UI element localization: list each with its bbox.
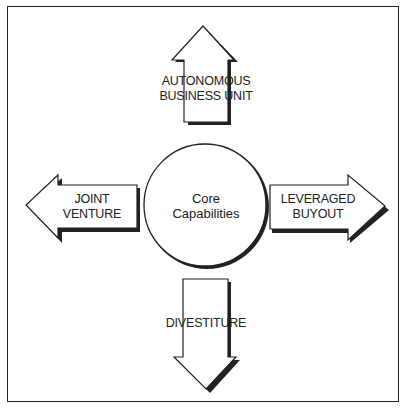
- label-line: LEVERAGED: [276, 192, 360, 207]
- label-line: BUYOUT: [276, 207, 360, 222]
- label-line: AUTONOMOUS: [150, 74, 262, 89]
- label-leveraged-buyout: LEVERAGED BUYOUT: [276, 192, 360, 222]
- arrow-down-icon: [174, 279, 240, 393]
- label-joint-venture: JOINT VENTURE: [52, 192, 132, 222]
- label-line: Capabilities: [160, 206, 252, 221]
- label-line: BUSINESS UNIT: [150, 89, 262, 104]
- label-line: VENTURE: [52, 207, 132, 222]
- label-divestiture: DIVESTITURE: [155, 316, 257, 331]
- label-line: DIVESTITURE: [155, 316, 257, 331]
- label-core-capabilities: Core Capabilities: [160, 191, 252, 221]
- label-line: JOINT: [52, 192, 132, 207]
- label-line: Core: [160, 191, 252, 206]
- label-autonomous-business-unit: AUTONOMOUS BUSINESS UNIT: [150, 74, 262, 104]
